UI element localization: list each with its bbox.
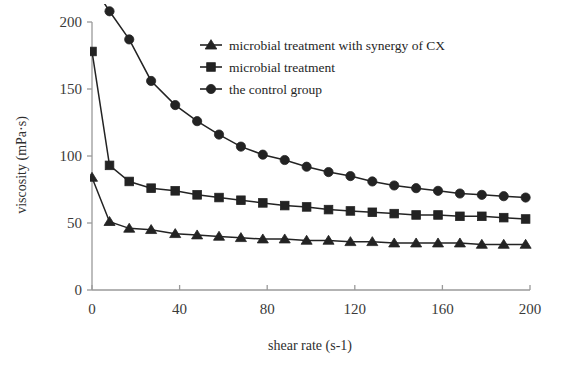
circle-marker [521,193,530,202]
circle-marker [499,192,508,201]
square-marker [215,193,224,202]
circle-marker [236,142,245,151]
circle-marker [477,190,486,199]
x-tick-label: 160 [431,301,454,317]
square-marker [390,209,399,218]
x-tick-label: 200 [519,301,542,317]
circle-marker [214,130,223,139]
square-marker [368,208,377,217]
legend-layer: microbial treatment with synergy of CXmi… [200,38,445,97]
square-marker [207,63,216,72]
square-marker [171,187,180,196]
series-circle [92,0,530,202]
circle-marker [193,117,202,126]
square-marker [125,177,134,186]
square-marker [434,211,443,220]
circle-marker [390,181,399,190]
square-marker [324,205,333,214]
square-marker [193,191,202,200]
square-marker [346,207,355,216]
x-tick-label: 120 [344,301,367,317]
circle-marker [105,7,114,16]
square-marker [259,199,268,208]
chart-canvas: 05010015020004080120160200 microbial tre… [0,0,564,372]
circle-marker [346,172,355,181]
y-axis-title: viscosity (mPa·s) [14,116,30,214]
circle-marker [125,35,134,44]
circle-marker [280,155,289,164]
legend-label: the control group [229,82,322,97]
y-tick-label: 150 [60,81,83,97]
square-marker [499,213,508,222]
legend-entry: microbial treatment with synergy of CX [200,38,445,53]
legend-label: microbial treatment [229,60,335,75]
square-marker [237,196,246,205]
x-tick-label: 0 [88,301,96,317]
square-marker [456,212,465,221]
circle-marker [147,76,156,85]
x-tick-label: 80 [260,301,275,317]
circle-marker [455,189,464,198]
square-marker [280,201,289,210]
square-marker [478,212,487,221]
circle-marker [258,150,267,159]
square-marker [88,47,97,56]
square-marker [302,203,311,212]
circle-marker [206,84,215,93]
legend-entry: the control group [200,82,322,97]
y-tick-label: 0 [75,282,83,298]
circle-marker [368,177,377,186]
viscosity-shear-rate-chart: 05010015020004080120160200 microbial tre… [0,0,564,372]
y-tick-label: 200 [60,14,83,30]
x-tick-label: 40 [172,301,187,317]
triangle-marker [104,217,115,226]
circle-marker [171,100,180,109]
square-marker [412,211,421,220]
circle-marker [433,186,442,195]
x-axis-title: shear rate (s-1) [268,338,352,354]
circle-marker [302,162,311,171]
square-marker [105,161,114,170]
legend-label: microbial treatment with synergy of CX [229,38,445,53]
triangle-marker [86,172,97,181]
square-marker [147,184,156,193]
circle-marker [412,184,421,193]
legend-entry: microbial treatment [200,60,335,75]
y-tick-label: 100 [60,148,83,164]
y-tick-label: 50 [67,215,82,231]
circle-marker [324,167,333,176]
square-marker [521,215,530,224]
